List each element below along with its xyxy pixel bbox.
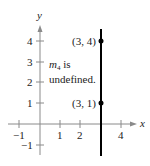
x-axis-label: x (139, 117, 145, 129)
y-tick-label: 2 (27, 76, 33, 88)
slope-is: is (60, 58, 70, 70)
slope-symbol: m (49, 58, 57, 70)
chart: x y −1 1 2 4 4 3 2 1 −1 (3, 4) (3, 1) m4… (0, 0, 150, 166)
point-3-1 (99, 101, 104, 106)
x-tick-label: 4 (118, 129, 124, 141)
y-axis-label: y (36, 9, 42, 21)
point-3-4 (99, 39, 104, 44)
y-axis-arrow-icon (38, 25, 43, 32)
slope-annotation-line2: undefined. (49, 73, 96, 85)
y-tick-label: −1 (21, 139, 33, 151)
x-tick-label: 1 (57, 129, 63, 141)
slope-annotation: m4 is (49, 58, 71, 72)
y-tick-label: 1 (27, 97, 33, 109)
y-tick-label: 3 (27, 56, 33, 68)
point-label-3-1: (3, 1) (72, 97, 96, 110)
y-tick-label: 4 (27, 35, 33, 47)
x-tick-label: 2 (77, 129, 83, 141)
point-label-3-4: (3, 4) (72, 35, 96, 48)
x-axis-arrow-icon (130, 122, 137, 127)
